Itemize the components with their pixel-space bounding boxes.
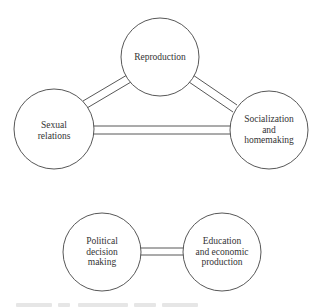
- label-line: Sexual: [38, 120, 71, 131]
- label-line: production: [195, 257, 248, 268]
- diagram-canvas: Reproduction Sexual relations Socializat…: [0, 0, 320, 308]
- edge-reproduction-socialization: [189, 75, 237, 112]
- label-line: Education: [195, 236, 248, 247]
- label-line: making: [86, 257, 118, 268]
- node-label-education: Education and economic production: [195, 236, 248, 268]
- edge-sexual-socialization: [93, 126, 231, 134]
- edge-political-education: [140, 248, 184, 255]
- label-line: Political: [86, 236, 118, 247]
- label-line: and: [244, 125, 294, 136]
- node-label-socialization: Socialization and homemaking: [244, 114, 294, 146]
- node-label-reproduction: Reproduction: [134, 52, 186, 63]
- caption-fragment: [134, 303, 156, 307]
- caption-fragment: [58, 303, 70, 307]
- node-label-political: Political decision making: [86, 236, 118, 268]
- label-line: decision: [86, 247, 118, 258]
- diagram-graphics: [0, 0, 320, 308]
- node-label-sexual-relations: Sexual relations: [38, 120, 71, 141]
- caption-fragment: [162, 303, 198, 307]
- label-line: Reproduction: [134, 52, 186, 63]
- caption-fragment: [16, 303, 52, 307]
- label-line: Socialization: [244, 114, 294, 125]
- label-line: and economic: [195, 247, 248, 258]
- caption-fragment: [78, 303, 128, 307]
- edge-sexual-reproduction: [83, 75, 131, 108]
- label-line: homemaking: [244, 135, 294, 146]
- label-line: relations: [38, 130, 71, 141]
